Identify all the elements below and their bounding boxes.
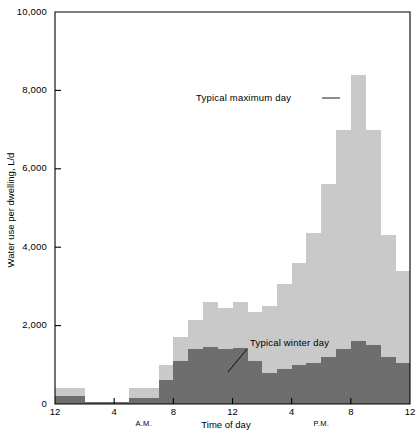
annotation-label-1: Typical winter day xyxy=(250,337,329,348)
bar-winter-day-hour-5 xyxy=(129,398,144,404)
y-tick-label-0: 0 xyxy=(42,398,47,409)
bar-winter-day-hour-14 xyxy=(262,373,277,404)
bars-typical-winter-day xyxy=(55,341,410,404)
bar-winter-day-hour-1 xyxy=(70,396,85,404)
y-tick-label-10000: 10,000 xyxy=(17,6,47,17)
water-use-chart-figure: 02,0004,0006,0008,00010,000 1248124812 A… xyxy=(0,0,420,440)
x-tick-label-2: 8 xyxy=(171,406,176,417)
bar-winter-day-hour-8 xyxy=(173,361,188,404)
x-tick-label-6: 12 xyxy=(405,406,416,417)
bar-winter-day-hour-10 xyxy=(203,347,218,404)
y-tick-label-2000: 2,000 xyxy=(22,319,47,330)
bar-winter-day-hour-23 xyxy=(395,363,410,404)
bar-winter-day-hour-22 xyxy=(380,357,395,404)
bar-winter-day-hour-21 xyxy=(366,345,381,404)
bar-winter-day-hour-15 xyxy=(277,369,292,404)
bar-winter-day-hour-19 xyxy=(336,349,351,404)
y-tick-label-4000: 4,000 xyxy=(22,241,47,252)
bar-winter-day-hour-6 xyxy=(144,398,159,404)
x-tick-label-0: 12 xyxy=(50,406,61,417)
y-axis-ticks: 02,0004,0006,0008,00010,000 xyxy=(17,6,61,409)
x-tick-label-1: 4 xyxy=(112,406,117,417)
y-axis-title: Water use per dwelling, L/d xyxy=(5,153,16,268)
bar-winter-day-hour-9 xyxy=(188,349,203,404)
bar-winter-day-hour-13 xyxy=(247,361,262,404)
period-label-pm: P.M. xyxy=(313,419,329,428)
y-tick-label-8000: 8,000 xyxy=(22,84,47,95)
x-tick-label-3: 12 xyxy=(227,406,238,417)
bar-winter-day-hour-18 xyxy=(321,357,336,404)
bar-winter-day-hour-7 xyxy=(159,380,174,404)
bar-winter-day-hour-20 xyxy=(351,341,366,404)
bar-winter-day-hour-16 xyxy=(292,365,307,404)
x-axis-title: Time of day xyxy=(201,419,251,430)
bar-winter-day-hour-0 xyxy=(55,396,70,404)
period-label-am: A.M. xyxy=(135,419,152,428)
bar-winter-day-hour-11 xyxy=(218,349,233,404)
y-tick-label-6000: 6,000 xyxy=(22,162,47,173)
annotation-label-0: Typical maximum day xyxy=(196,92,291,103)
bar-winter-day-hour-17 xyxy=(306,363,321,404)
x-tick-label-4: 4 xyxy=(289,406,294,417)
chart-svg: 02,0004,0006,0008,00010,000 1248124812 A… xyxy=(0,0,420,440)
x-tick-label-5: 8 xyxy=(348,406,353,417)
